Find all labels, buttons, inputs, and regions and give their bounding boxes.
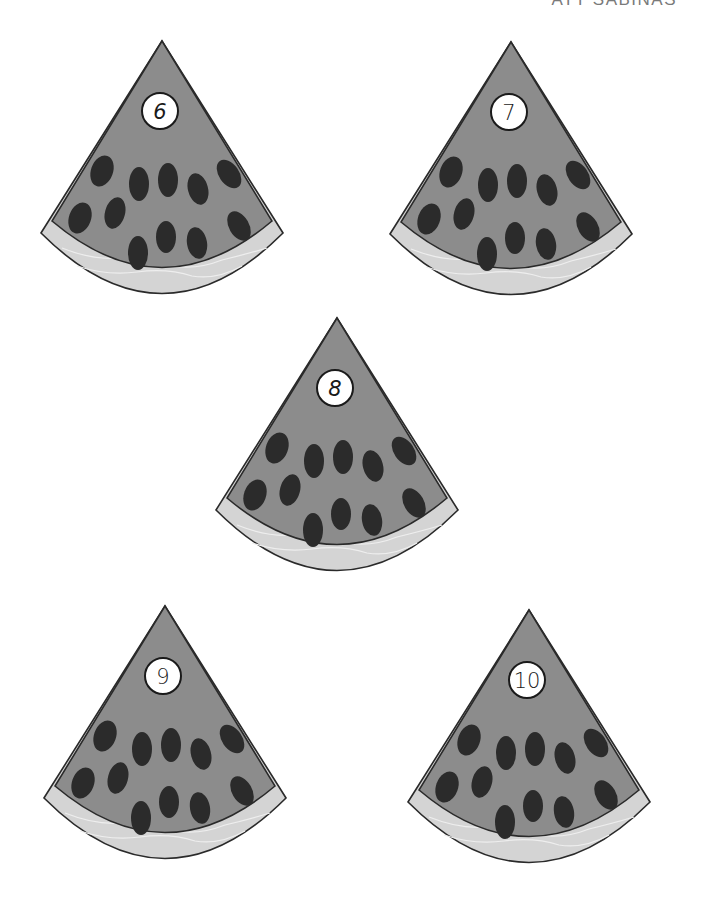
watermelon-icon: 7 bbox=[381, 35, 641, 305]
watermelon-icon: 8 bbox=[207, 311, 467, 581]
watermelon-icon: 6 bbox=[32, 34, 292, 304]
watermelon-slice-6: 6 bbox=[32, 34, 292, 304]
slice-number: 9 bbox=[156, 665, 169, 689]
watermelon-icon: 9 bbox=[35, 599, 295, 869]
slice-number: 6 bbox=[153, 100, 166, 124]
page-header-label: ATT SABINAS bbox=[552, 0, 677, 9]
slice-number: 7 bbox=[502, 101, 515, 125]
slice-number: 10 bbox=[514, 669, 541, 693]
watermelon-slice-7: 7 bbox=[381, 35, 641, 305]
watermelon-icon: 10 bbox=[399, 603, 659, 873]
watermelon-slice-8: 8 bbox=[207, 311, 467, 581]
watermelon-slice-9: 9 bbox=[35, 599, 295, 869]
watermelon-slice-10: 10 bbox=[399, 603, 659, 873]
slice-number: 8 bbox=[328, 377, 341, 401]
